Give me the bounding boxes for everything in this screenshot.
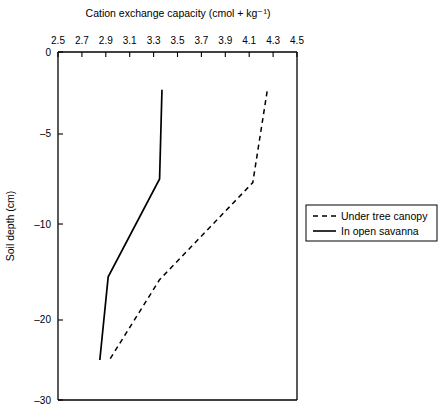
y-tick-label-group: 0–5–10–20–30 bbox=[34, 47, 51, 406]
plot-frame bbox=[58, 52, 297, 400]
legend-label-under-tree-canopy: Under tree canopy bbox=[341, 210, 428, 222]
x-tick-label: 3.3 bbox=[147, 35, 161, 46]
x-tick-label: 3.1 bbox=[123, 35, 137, 46]
y-axis-title: Soil depth (cm) bbox=[4, 191, 16, 262]
data-line-in-open-savanna bbox=[100, 90, 162, 360]
y-tick-label: 0 bbox=[45, 47, 51, 58]
x-tick-label: 4.5 bbox=[290, 35, 304, 46]
x-axis-title: Cation exchange capacity (cmol + kg⁻¹) bbox=[86, 7, 271, 19]
cation-exchange-capacity-chart: Cation exchange capacity (cmol + kg⁻¹) S… bbox=[0, 0, 442, 417]
y-tick-label: –10 bbox=[34, 219, 51, 230]
legend-label-in-open-savanna: In open savanna bbox=[341, 225, 419, 237]
x-tick-label-group: 2.52.72.93.13.33.53.73.94.14.34.5 bbox=[51, 35, 304, 46]
data-line-under-tree-canopy bbox=[109, 91, 267, 360]
x-tick-label: 3.5 bbox=[171, 35, 185, 46]
x-tick-label: 2.7 bbox=[75, 35, 89, 46]
chart-legend: Under tree canopy In open savanna bbox=[306, 205, 437, 241]
x-tick-label: 2.9 bbox=[99, 35, 113, 46]
x-tick-label: 4.3 bbox=[266, 35, 280, 46]
chart-root: Cation exchange capacity (cmol + kg⁻¹) S… bbox=[0, 0, 442, 417]
y-tick-label: –5 bbox=[40, 128, 52, 139]
x-tick-label: 4.1 bbox=[242, 35, 256, 46]
data-series-group bbox=[100, 90, 267, 360]
x-tick-mark-group bbox=[58, 52, 297, 57]
x-tick-label: 3.7 bbox=[194, 35, 208, 46]
x-tick-label: 3.9 bbox=[218, 35, 232, 46]
y-tick-label: –30 bbox=[34, 395, 51, 406]
x-tick-label: 2.5 bbox=[51, 35, 65, 46]
y-tick-label: –20 bbox=[34, 314, 51, 325]
y-tick-mark-group bbox=[58, 52, 63, 400]
